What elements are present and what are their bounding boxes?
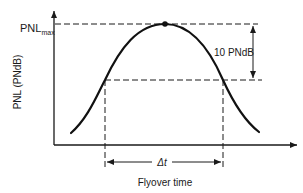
y-axis-label: PNL (PNdB) <box>12 55 23 110</box>
pnl-flyover-diagram: PNLmax PNL (PNdB) 10 PNdB Δt Flyover tim… <box>0 0 303 193</box>
pnl-curve <box>71 24 259 133</box>
x-axis-label: Flyover time <box>138 177 193 188</box>
peak-point <box>162 21 168 27</box>
pnl-max-label: PNLmax <box>20 22 55 36</box>
delta-t-label: Δt <box>156 157 168 168</box>
ten-pndb-label: 10 PNdB <box>214 47 254 58</box>
